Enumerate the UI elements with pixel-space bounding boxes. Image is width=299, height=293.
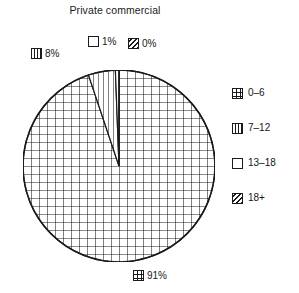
empty-swatch-icon	[88, 36, 99, 47]
pie-chart-figure: Private commercial	[0, 0, 299, 293]
callout-18plus-label: 0%	[142, 38, 156, 49]
legend-item-0-6-label: 0–6	[248, 88, 265, 98]
empty-swatch-icon	[232, 158, 243, 169]
legend-item-7-12-label: 7–12	[248, 123, 270, 133]
callout-7-12-label: 8%	[45, 48, 59, 59]
diagonal-hatch-swatch-icon	[128, 38, 139, 49]
pie-svg	[23, 70, 215, 262]
callout-0-6-label: 91%	[147, 270, 167, 281]
legend-item-7-12: 7–12	[232, 121, 296, 135]
chart-title: Private commercial	[0, 4, 230, 16]
legend-item-18plus-label: 18+	[248, 193, 265, 203]
vertical-lines-swatch-icon	[232, 123, 243, 134]
legend-item-0-6: 0–6	[232, 86, 296, 100]
legend-item-13-18-label: 13–18	[248, 158, 276, 168]
grid-swatch-icon	[133, 270, 144, 281]
callout-0-6: 91%	[133, 270, 167, 281]
legend-item-18plus: 18+	[232, 191, 296, 205]
pie-chart-plot	[23, 70, 215, 262]
callout-13-18: 1%	[88, 36, 116, 47]
chart-legend: 0–6 7–12 13–18 18+	[232, 86, 296, 226]
legend-item-13-18: 13–18	[232, 156, 296, 170]
grid-swatch-icon	[232, 88, 243, 99]
vertical-lines-swatch-icon	[31, 48, 42, 59]
diagonal-hatch-swatch-icon	[232, 193, 243, 204]
callout-18plus: 0%	[128, 38, 156, 49]
callout-7-12: 8%	[31, 48, 59, 59]
callout-13-18-label: 1%	[102, 36, 116, 47]
